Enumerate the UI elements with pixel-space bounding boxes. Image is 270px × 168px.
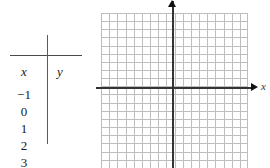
table-header-rule <box>10 55 82 56</box>
table-row: 2 <box>6 138 42 154</box>
y-axis-arrow-icon <box>168 0 176 7</box>
grid-right-border <box>247 13 248 168</box>
x-axis-line <box>96 87 254 89</box>
table-column-divider <box>47 35 48 144</box>
y-axis-line <box>172 1 174 168</box>
table-row: 0 <box>6 104 42 120</box>
table-row: −1 <box>6 87 42 103</box>
x-axis-arrow-icon <box>251 83 258 91</box>
table-header-y: y <box>49 64 71 80</box>
worksheet-page: x y −1 0 1 2 3 x <box>0 0 270 168</box>
x-axis-label: x <box>261 80 266 92</box>
table-row: 1 <box>6 121 42 137</box>
coordinate-grid[interactable]: x <box>101 13 248 168</box>
table-row: 3 <box>6 155 42 168</box>
value-table: x y −1 0 1 2 3 <box>0 28 95 153</box>
table-header-x: x <box>13 64 35 80</box>
grid-lines <box>101 13 248 168</box>
